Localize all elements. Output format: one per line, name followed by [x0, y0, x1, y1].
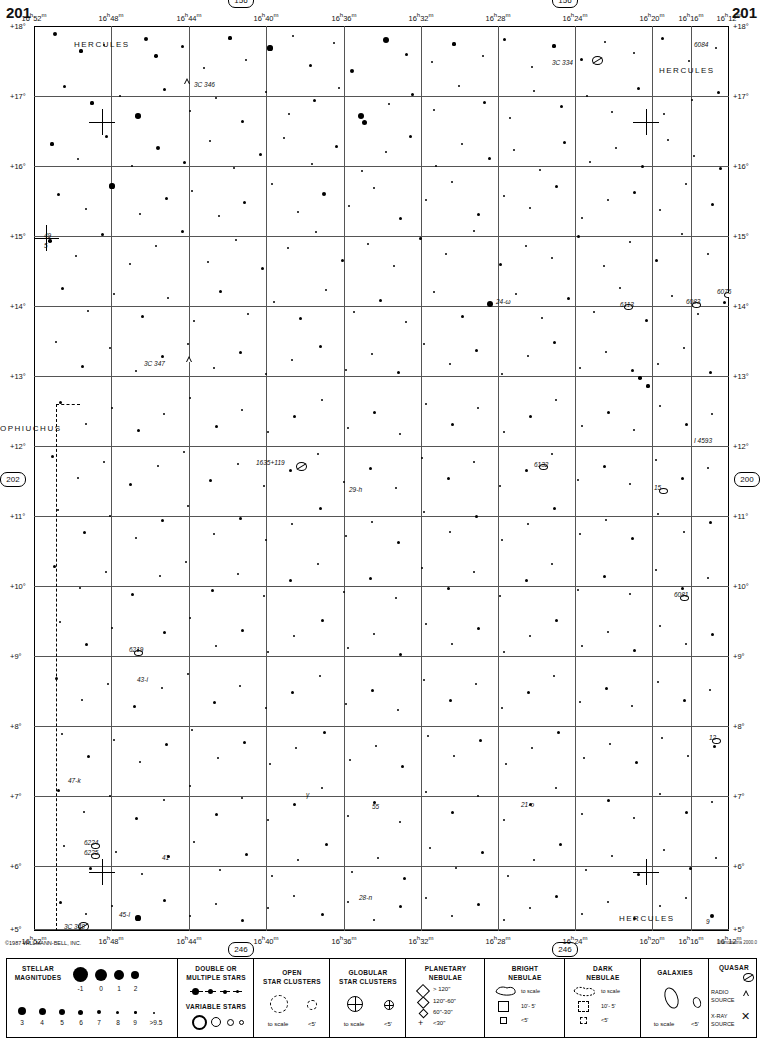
star-marker	[633, 191, 636, 194]
star-marker	[163, 899, 166, 902]
star-marker	[583, 757, 586, 760]
star-marker	[635, 761, 638, 764]
star-marker	[479, 739, 482, 742]
object-label: 6219	[129, 646, 143, 653]
star-marker	[717, 91, 720, 94]
star-marker	[477, 903, 480, 906]
star-marker	[425, 791, 428, 794]
legend-mag-label-0: 0	[94, 985, 108, 992]
legend-pn-symbol-4: +	[418, 1019, 423, 1028]
star-marker	[77, 158, 80, 161]
star-marker	[503, 195, 506, 198]
legend-bn-shape-icon	[495, 985, 517, 997]
legend-glob-symbol-large	[347, 996, 363, 1012]
star-marker	[557, 731, 560, 734]
dec-tick-label-left: +18°	[10, 22, 26, 31]
star-marker	[709, 521, 712, 524]
legend-bn-small: <5'	[521, 1017, 528, 1023]
coordinate-cross-marker	[89, 109, 115, 135]
dec-tick-label-right: +18°	[733, 22, 749, 31]
star-marker	[711, 633, 714, 636]
object-label: 15	[654, 484, 661, 491]
star-marker	[165, 743, 168, 746]
star-marker	[139, 761, 142, 764]
star-marker	[707, 467, 710, 470]
legend-open-title-2: STAR CLUSTERS	[254, 978, 330, 986]
star-marker	[429, 847, 432, 850]
star-marker	[567, 297, 570, 300]
legend-mag-label-5: 5	[55, 1019, 69, 1026]
star-marker	[137, 429, 140, 432]
star-marker	[710, 914, 715, 919]
dec-tick-label-right: +17°	[733, 92, 749, 101]
star-marker	[50, 142, 53, 145]
star-marker	[681, 233, 684, 236]
star-marker	[181, 45, 184, 48]
star-marker	[292, 35, 295, 38]
star-marker	[101, 233, 104, 236]
star-marker	[531, 747, 534, 750]
neighbor-chart-top-left[interactable]: 156	[228, 0, 254, 8]
star-marker	[604, 41, 607, 44]
object-label: 21-o	[521, 801, 534, 808]
neighbor-chart-top-right[interactable]: 156	[552, 0, 578, 8]
star-marker	[477, 213, 480, 216]
star-marker	[53, 32, 57, 36]
star-marker	[319, 675, 322, 678]
map-plot-area	[34, 26, 729, 931]
star-marker	[581, 425, 584, 428]
neighbor-chart-bottom-left[interactable]: 246	[228, 942, 254, 957]
dec-tick-label-left: +11°	[10, 512, 25, 521]
star-marker	[551, 453, 554, 456]
star-marker	[81, 365, 84, 368]
star-marker	[433, 109, 436, 112]
sky-map[interactable]: 156 156 202 200 246 246 16h52m16h48m16h4…	[34, 26, 729, 931]
object-label: 3C 347	[144, 360, 165, 367]
star-marker	[525, 245, 528, 248]
radio-source-symbol	[186, 356, 192, 362]
star-marker	[475, 349, 478, 352]
star-marker	[317, 453, 320, 456]
star-marker	[553, 341, 556, 344]
star-marker	[515, 293, 518, 296]
object-label: 6113	[620, 301, 634, 308]
star-marker	[685, 423, 688, 426]
legend-mag-dot-4	[39, 1008, 46, 1015]
legend-open-symbol-large	[270, 995, 288, 1013]
ra-tick-label-bottom: 16h32m	[408, 935, 433, 946]
legend-mag-label-95: >9.5	[143, 1019, 169, 1026]
legend-stellar-magnitudes: STELLAR MAGNITUDES -1 0 1 2 3 4 5 6 7 8 …	[7, 959, 177, 1037]
star-marker	[593, 311, 596, 314]
star-marker	[131, 593, 134, 596]
star-marker	[338, 87, 341, 90]
star-marker	[499, 263, 502, 266]
star-marker	[425, 199, 428, 202]
star-marker	[611, 111, 614, 114]
star-marker	[707, 253, 710, 256]
star-marker	[685, 811, 688, 814]
star-marker	[325, 843, 328, 846]
star-marker	[261, 267, 264, 270]
legend-gx-title: GALAXIES	[641, 969, 709, 977]
star-marker	[409, 135, 412, 138]
legend-double-title-2: MULTIPLE STARS	[178, 974, 254, 982]
star-marker	[579, 701, 582, 704]
neighbor-chart-right[interactable]: 200	[734, 472, 760, 487]
star-marker	[191, 729, 194, 732]
star-marker	[309, 64, 312, 67]
star-marker	[315, 231, 318, 234]
object-label: 45-l	[119, 911, 130, 918]
neighbor-chart-left[interactable]: 202	[0, 472, 26, 487]
object-label: 3C 334	[552, 59, 573, 66]
star-marker	[715, 47, 718, 50]
coordinate-cross-marker	[633, 109, 659, 135]
legend-pn-label-4: <30"	[433, 1020, 445, 1026]
legend-double-variable: DOUBLE OR MULTIPLE STARS VARIABLE STARS	[177, 959, 254, 1037]
legend-gx-scale: to scale	[643, 1021, 685, 1027]
legend-variable-symbol-mid	[211, 1017, 221, 1027]
star-marker	[663, 113, 666, 116]
coordinate-cross-marker	[633, 859, 659, 885]
star-marker	[228, 36, 231, 39]
star-marker	[271, 875, 274, 878]
star-marker	[135, 113, 141, 119]
